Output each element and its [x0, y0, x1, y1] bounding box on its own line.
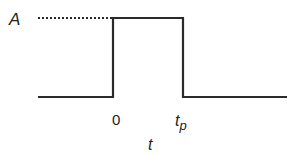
pulse-diagram: A 0 tp t: [0, 0, 305, 156]
amplitude-label: A: [8, 10, 20, 29]
pulse-end-label: tp: [175, 112, 187, 133]
time-axis-label: t: [148, 136, 153, 153]
pulse-waveform: [38, 18, 287, 97]
pulse-end-label-sub: p: [178, 118, 186, 133]
start-time-label: 0: [112, 111, 120, 128]
